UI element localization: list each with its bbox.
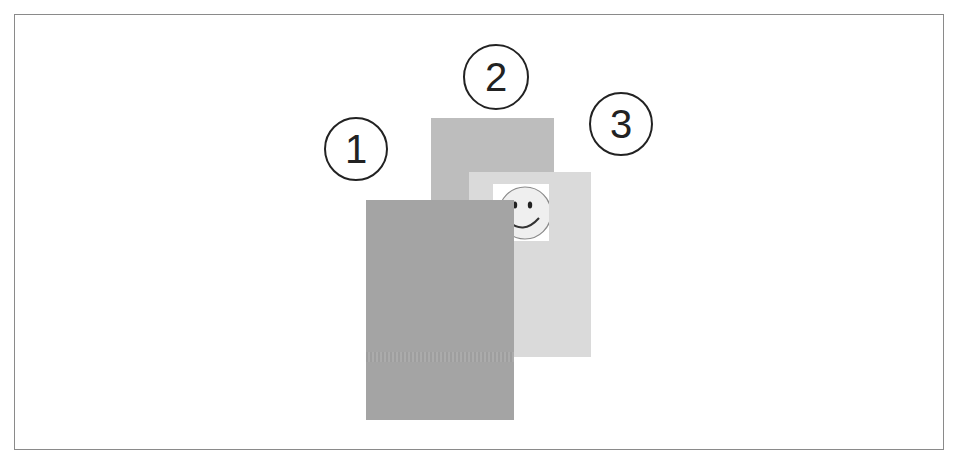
label-3-circled-number: 3 <box>589 92 653 156</box>
label-1-text: 1 <box>345 129 367 169</box>
label-1-circled-number: 1 <box>324 117 388 181</box>
label-2-text: 2 <box>485 57 507 97</box>
layer-1-rect <box>366 200 514 420</box>
label-2-circled-number: 2 <box>463 44 529 110</box>
label-3-text: 3 <box>610 104 632 144</box>
texture-band <box>366 352 514 362</box>
